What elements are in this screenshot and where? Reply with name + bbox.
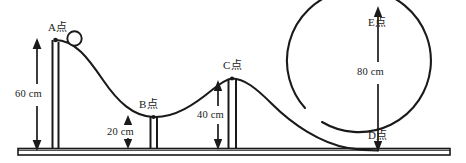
dimension-label-80cm: 80 cm [356, 67, 385, 78]
point-c-marker [230, 76, 234, 80]
dimension-label-40cm: 40 cm [196, 110, 225, 121]
ball [67, 31, 81, 45]
point-b-marker [151, 115, 155, 119]
dimension-label-60cm: 60 cm [14, 89, 43, 100]
point-e-label: E点 [368, 17, 387, 28]
point-a-marker [53, 38, 58, 43]
track-drawing [0, 0, 466, 163]
point-b-label: B点 [139, 99, 158, 110]
support-post-b [151, 117, 158, 149]
track-curve [55, 40, 378, 151]
roller-coaster-diagram: A点 B点 C点 D点 E点 60 cm 20 cm 40 cm 80 cm [0, 0, 466, 163]
point-c-label: C点 [223, 60, 242, 71]
ground-rail [18, 149, 450, 156]
dimension-label-20cm: 20 cm [106, 127, 135, 138]
support-post-c [229, 79, 237, 149]
point-a-label: A点 [48, 22, 68, 33]
support-post-a [53, 40, 59, 149]
point-d-label: D点 [368, 130, 388, 141]
